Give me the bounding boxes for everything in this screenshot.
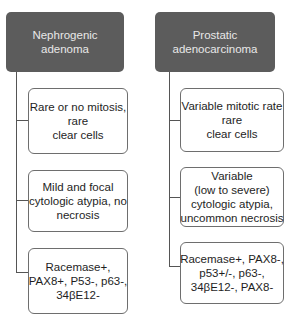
- connector-branch-left-1: [16, 120, 28, 121]
- node-text-line: rare: [68, 114, 88, 128]
- node-prostatic-mitosis: Variable mitotic rate rare clear cells: [180, 88, 284, 152]
- connector-branch-left-3: [16, 272, 28, 273]
- node-text-line: cytologic atypia,: [191, 197, 273, 211]
- node-text-line: (low to severe): [194, 183, 269, 197]
- connector-trunk-left: [16, 72, 17, 272]
- header-nephrogenic-adenoma: Nephrogenic adenoma: [6, 12, 124, 72]
- node-text-line: Variable mitotic rate: [182, 99, 283, 113]
- connector-branch-left-2: [16, 200, 28, 201]
- node-text-line: Variable: [211, 169, 252, 183]
- node-text-line: Racemase+, PAX8-,: [180, 252, 284, 266]
- header-prostatic-adenocarcinoma: Prostatic adenocarcinoma: [155, 12, 275, 72]
- node-nephrogenic-immunoprofile: Racemase+, PAX8+, P53-, p63-, 34βE12-: [28, 248, 128, 314]
- node-text-line: clear cells: [52, 128, 103, 142]
- node-text-line: Racemase+,: [46, 260, 111, 274]
- node-nephrogenic-mitosis: Rare or no mitosis, rare clear cells: [28, 88, 128, 154]
- connector-trunk-right: [169, 72, 170, 266]
- node-text-line: 34βE12-, PAX8-: [191, 280, 273, 294]
- node-text-line: uncommon necrosis: [181, 211, 284, 225]
- node-text-line: Mild and focal: [43, 180, 114, 194]
- header-line: Nephrogenic: [32, 28, 97, 42]
- header-line: Prostatic: [193, 28, 238, 42]
- node-text-line: PAX8+, P53-, p63-,: [29, 274, 128, 288]
- node-nephrogenic-atypia: Mild and focal cytologic atypia, no necr…: [28, 170, 128, 232]
- node-text-line: p53+/-, p63-,: [199, 266, 265, 280]
- node-text-line: Rare or no mitosis,: [30, 100, 127, 114]
- node-prostatic-immunoprofile: Racemase+, PAX8-, p53+/-, p63-, 34βE12-,…: [180, 242, 284, 304]
- node-text-line: cytologic atypia, no: [29, 194, 127, 208]
- node-prostatic-atypia: Variable (low to severe) cytologic atypi…: [180, 167, 284, 227]
- header-line: adenoma: [41, 42, 89, 56]
- node-text-line: 34βE12-: [56, 288, 100, 302]
- header-line: adenocarcinoma: [172, 42, 257, 56]
- node-text-line: necrosis: [57, 208, 100, 222]
- node-text-line: clear cells: [206, 127, 257, 141]
- node-text-line: rare: [222, 113, 242, 127]
